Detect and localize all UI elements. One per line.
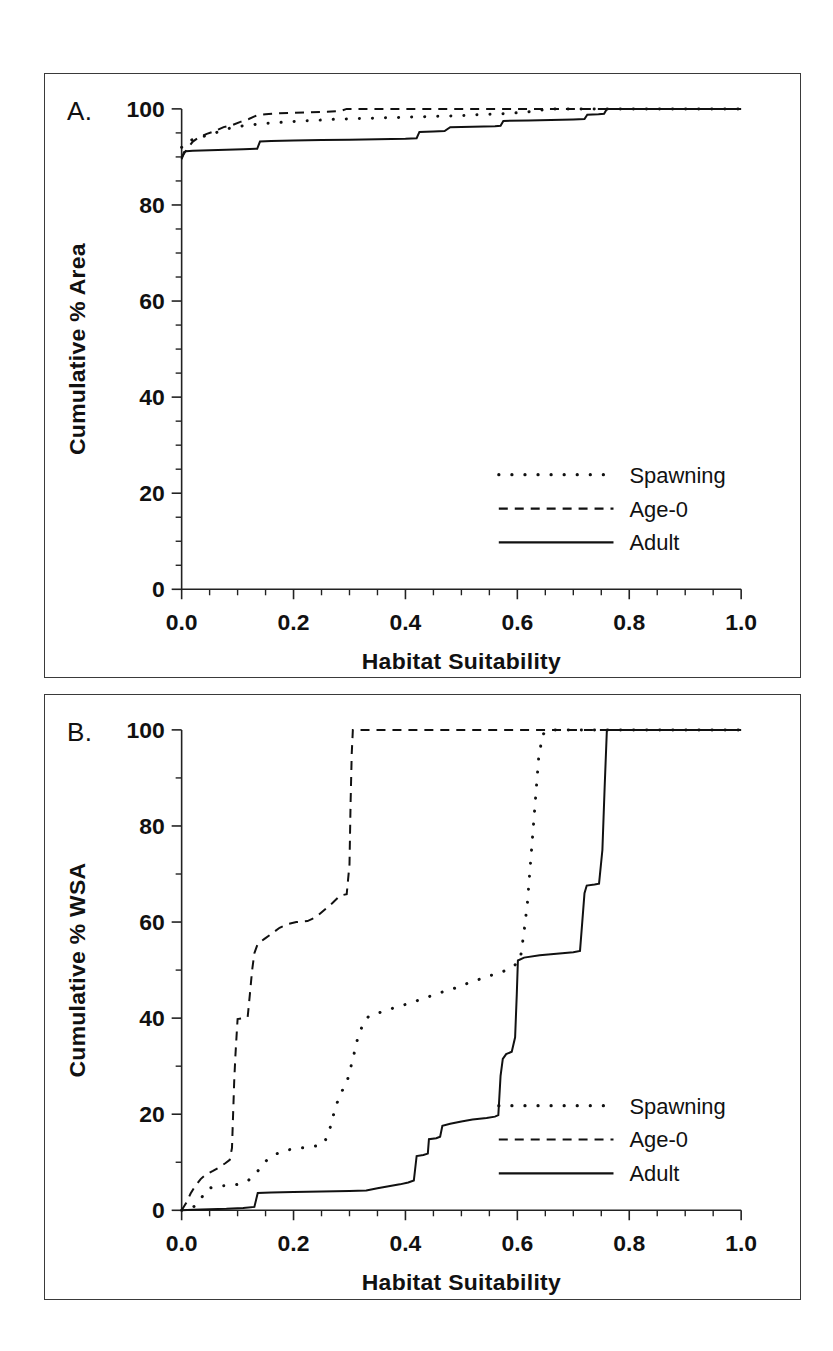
x-tick-label: 0.2 (278, 609, 310, 635)
panel-a: A. 0.00.20.40.60.81.0020406080100Habitat… (44, 73, 801, 678)
panel-b: B. 0.00.20.40.60.81.0020406080100Habitat… (44, 694, 801, 1300)
x-tick-label: 1.0 (725, 609, 757, 635)
x-axis-title: Habitat Suitability (362, 1269, 561, 1295)
series-curve-adult (182, 109, 742, 159)
figure-container: A. 0.00.20.40.60.81.0020406080100Habitat… (0, 0, 833, 1351)
y-tick-label: 20 (139, 480, 165, 506)
x-tick-label: 0.6 (501, 609, 533, 635)
x-tick-label: 1.0 (725, 1230, 757, 1256)
x-axis-title: Habitat Suitability (362, 648, 561, 674)
x-tick-label: 0.8 (613, 609, 645, 635)
panel-a-plot: 0.00.20.40.60.81.0020406080100Habitat Su… (45, 74, 800, 677)
y-tick-label: 80 (139, 192, 165, 218)
legend-label-spawning: Spawning (629, 1094, 725, 1119)
y-tick-label: 60 (139, 909, 165, 935)
legend-label-age-0: Age-0 (629, 497, 688, 522)
x-tick-label: 0.6 (501, 1230, 533, 1256)
y-tick-label: 80 (139, 813, 165, 839)
y-tick-label: 40 (139, 384, 165, 410)
x-tick-label: 0.4 (390, 1230, 422, 1256)
y-tick-label: 100 (126, 717, 164, 743)
series-curve-age-0 (182, 109, 742, 158)
y-tick-label: 0 (152, 576, 165, 602)
x-tick-label: 0.8 (613, 1230, 645, 1256)
panel-b-plot: 0.00.20.40.60.81.0020406080100Habitat Su… (45, 695, 800, 1299)
legend-label-adult: Adult (629, 530, 679, 555)
legend-label-age-0: Age-0 (629, 1128, 688, 1153)
y-tick-label: 40 (139, 1005, 165, 1031)
legend-label-spawning: Spawning (629, 463, 725, 488)
x-tick-label: 0.0 (166, 609, 198, 635)
x-tick-label: 0.4 (390, 609, 422, 635)
y-tick-label: 60 (139, 288, 165, 314)
x-tick-label: 0.2 (278, 1230, 310, 1256)
y-axis-title: Cumulative % Area (64, 243, 90, 455)
legend-label-adult: Adult (629, 1161, 679, 1186)
y-tick-label: 100 (126, 96, 164, 122)
x-tick-label: 0.0 (166, 1230, 198, 1256)
y-tick-label: 20 (139, 1101, 165, 1127)
y-axis-title: Cumulative % WSA (64, 863, 90, 1078)
y-tick-label: 0 (152, 1197, 165, 1223)
